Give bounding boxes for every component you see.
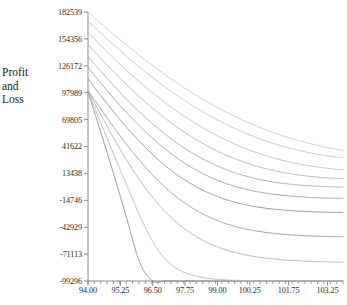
axis-lines xyxy=(88,12,343,281)
series-line-curve-3 xyxy=(88,33,343,170)
series-line-curve-10-expiry xyxy=(88,92,343,283)
profit-loss-chart: Profit and Loss 182539154356126172979896… xyxy=(0,0,347,305)
series-line-curve-2 xyxy=(88,21,343,158)
series-line-curve-11-floor xyxy=(88,91,343,281)
series-line-curve-6 xyxy=(88,67,343,198)
series-line-curve-9 xyxy=(88,91,343,262)
series-line-curve-4 xyxy=(88,44,343,178)
series-line-curve-5 xyxy=(88,56,343,187)
y-axis-ticks xyxy=(84,12,88,281)
data-series-group xyxy=(88,12,343,282)
plot-area xyxy=(0,0,347,305)
series-line-curve-1 xyxy=(88,12,343,150)
x-axis-ticks xyxy=(88,281,343,286)
